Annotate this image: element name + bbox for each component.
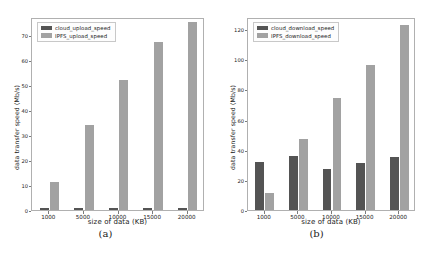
y-tick-mark [29,36,32,37]
legend-item-cloud-download: cloud_download_speed [257,25,334,31]
y-tick-mark [245,60,248,61]
y-tick-label-120: 120 [228,27,244,33]
x-tick-mark [152,211,153,214]
y-tick-label-50: 50 [12,83,28,89]
legend-item-ipfs-upload: IPFS_upload_speed [41,33,111,39]
bar-IPFS_upload_speed-1000 [50,182,59,210]
y-tick-mark [245,121,248,122]
bar-cloud_upload_speed-15000 [143,208,152,211]
x-tick-mark [264,211,265,214]
legend-swatch-icon-ipfs-upload [41,33,52,38]
bar-IPFS_download_speed-15000 [366,65,375,210]
bar-IPFS_upload_speed-5000 [85,125,94,210]
legend-label-cloud-download: cloud_download_speed [271,25,334,31]
legend-a: cloud_upload_speed IPFS_upload_speed [37,22,116,42]
bar-IPFS_download_speed-1000 [265,193,274,210]
y-tick-label-30: 30 [12,133,28,139]
y-tick-mark [29,136,32,137]
bar-IPFS_download_speed-10000 [333,98,342,210]
legend-b: cloud_download_speed IPFS_download_speed [253,22,339,42]
bar-cloud_download_speed-5000 [289,156,298,210]
bar-cloud_upload_speed-20000 [178,208,187,211]
y-tick-mark [29,86,32,87]
plot-area-a [31,18,204,211]
y-tick-label-80: 80 [228,87,244,93]
y-tick-mark [29,186,32,187]
x-tick-mark [331,211,332,214]
x-tick-mark [398,211,399,214]
legend-item-ipfs-download: IPFS_download_speed [257,33,334,39]
x-axis-label-b: size of data (KB) [247,218,415,226]
chart-panel-b: data transfer speed (Mb/s) 0204060801001… [211,0,422,259]
panel-caption-a: (a) [0,228,211,239]
y-tick-mark [245,151,248,152]
bar-cloud_upload_speed-5000 [74,208,83,211]
x-tick-mark [48,211,49,214]
legend-label-cloud-upload: cloud_upload_speed [55,25,111,31]
y-tick-mark [29,61,32,62]
plot-area-b [247,18,415,211]
y-tick-label-70: 70 [12,33,28,39]
y-tick-label-0: 0 [228,208,244,214]
y-tick-label-40: 40 [228,148,244,154]
y-tick-label-20: 20 [228,178,244,184]
y-tick-mark [245,181,248,182]
y-tick-mark [245,30,248,31]
y-tick-mark [245,90,248,91]
y-tick-label-10: 10 [12,183,28,189]
y-tick-mark [29,111,32,112]
legend-swatch-icon-ipfs-download [257,33,268,38]
legend-swatch-icon-cloud-download [257,26,268,31]
y-tick-label-20: 20 [12,158,28,164]
x-tick-mark [187,211,188,214]
x-tick-mark [118,211,119,214]
y-tick-label-60: 60 [228,118,244,124]
bar-IPFS_download_speed-5000 [299,139,308,210]
panel-caption-b: (b) [211,228,422,239]
y-tick-mark [245,211,248,212]
y-axis-label-b: data transfer speed (Mb/s) [229,85,236,170]
bar-cloud_download_speed-10000 [323,169,332,210]
legend-item-cloud-upload: cloud_upload_speed [41,25,111,31]
legend-swatch-icon-cloud-upload [41,26,52,31]
bar-group-a [32,19,203,210]
y-tick-label-100: 100 [228,57,244,63]
legend-label-ipfs-upload: IPFS_upload_speed [55,33,107,39]
bar-IPFS_download_speed-20000 [400,25,409,210]
bar-group-b [248,19,414,210]
bar-cloud_download_speed-15000 [356,163,365,210]
x-tick-mark [83,211,84,214]
y-tick-label-60: 60 [12,58,28,64]
legend-label-ipfs-download: IPFS_download_speed [271,33,331,39]
bar-IPFS_upload_speed-10000 [119,80,128,210]
figure-container: data transfer speed (Mb/s) 0102030405060… [0,0,422,259]
bar-cloud_upload_speed-10000 [109,208,118,211]
chart-panel-a: data transfer speed (Mb/s) 0102030405060… [0,0,211,259]
y-tick-mark [29,211,32,212]
y-tick-label-0: 0 [12,208,28,214]
x-tick-mark [365,211,366,214]
y-tick-label-40: 40 [12,108,28,114]
bar-cloud_download_speed-20000 [390,157,399,210]
bar-IPFS_upload_speed-20000 [188,22,197,210]
bar-cloud_upload_speed-1000 [40,208,49,211]
x-tick-mark [297,211,298,214]
x-axis-label-a: size of data (KB) [31,218,204,226]
y-tick-mark [29,161,32,162]
bar-cloud_download_speed-1000 [255,162,264,210]
bar-IPFS_upload_speed-15000 [154,42,163,210]
